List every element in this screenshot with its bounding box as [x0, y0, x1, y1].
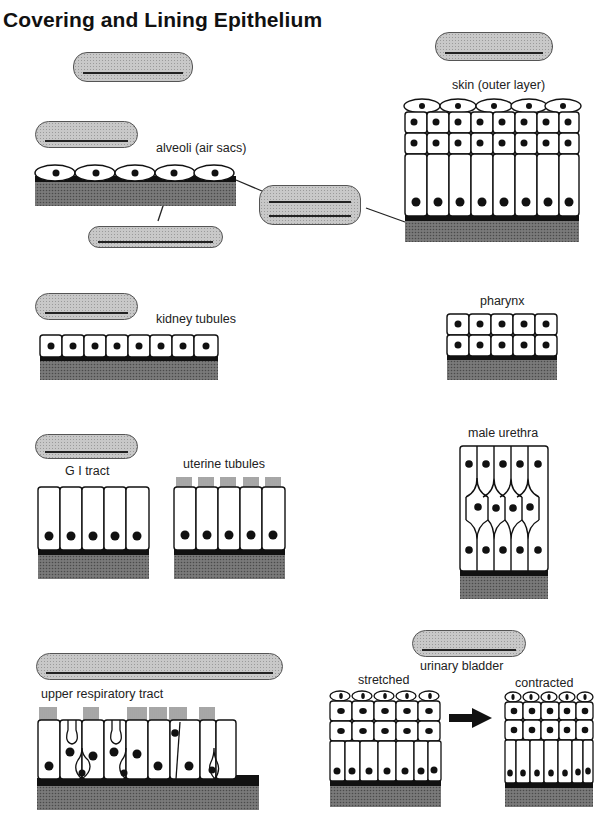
epithelium-diagram [0, 0, 610, 820]
kidney-tubules-tissue [40, 335, 218, 380]
skin-tissue [404, 99, 581, 242]
arrow-stretched-to-contracted [449, 708, 492, 728]
gi-tract-tissue [38, 487, 149, 579]
male-urethra-tissue [460, 446, 548, 599]
uterine-tubules-tissue [174, 477, 285, 579]
upper-respiratory-tract-tissue [37, 707, 259, 810]
bladder-stretched-tissue [330, 691, 441, 807]
pharynx-tissue [447, 314, 557, 380]
bladder-contracted-tissue [505, 692, 593, 807]
alveoli-tissue [35, 165, 236, 206]
